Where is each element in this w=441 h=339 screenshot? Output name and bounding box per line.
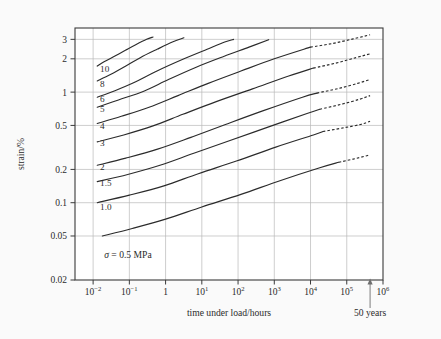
y-tick-label: 0.02 bbox=[50, 275, 67, 285]
x-tick-label: 1 bbox=[163, 287, 168, 297]
y-axis-title: strain/% bbox=[15, 138, 26, 170]
curve-stress-label: 5 bbox=[100, 104, 105, 114]
plot-area-background bbox=[75, 28, 383, 280]
curve-stress-label: 1.5 bbox=[100, 178, 112, 188]
curve-stress-label: 10 bbox=[100, 64, 110, 74]
y-tick-label: 1 bbox=[62, 88, 67, 98]
curve-stress-label: 8 bbox=[100, 79, 105, 89]
creep-curve-chart: 10−210−11101102103104105106 3210.50.20.1… bbox=[0, 0, 441, 339]
curve-stress-label: 3 bbox=[100, 138, 105, 148]
y-tick-label: 0.1 bbox=[55, 198, 67, 208]
curve-stress-label: 6 bbox=[100, 94, 105, 104]
y-tick-label: 0.5 bbox=[55, 121, 67, 131]
figure-canvas: 10−210−11101102103104105106 3210.50.20.1… bbox=[0, 0, 441, 339]
curve-stress-label: 2 bbox=[100, 162, 105, 172]
y-tick-label: 0.2 bbox=[55, 165, 67, 175]
x-axis-title: time under load/hours bbox=[187, 307, 271, 318]
y-tick-label: 0.05 bbox=[50, 231, 67, 241]
y-tick-label: 3 bbox=[62, 35, 67, 45]
y-tick-label: 2 bbox=[62, 54, 67, 64]
fifty-years-label: 50 years bbox=[354, 307, 387, 318]
stress-annotation: σ = 0.5 MPa bbox=[104, 249, 152, 260]
curve-stress-label: 1.0 bbox=[100, 202, 112, 212]
curve-stress-label: 4 bbox=[100, 121, 105, 131]
